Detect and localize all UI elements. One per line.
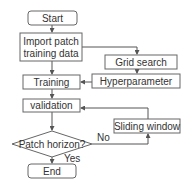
- start-node: Start: [28, 11, 77, 25]
- validation-node: validation: [23, 99, 80, 112]
- import-node: Import patch training data: [20, 33, 82, 61]
- end-node: End: [28, 164, 76, 178]
- sliding-window-label: Sliding window: [114, 121, 181, 132]
- start-label: Start: [42, 13, 63, 24]
- decision-label: Patch horizon?: [19, 139, 86, 150]
- grid-search-node: Grid search: [105, 55, 177, 69]
- hyperparameter-label: Hyperparameter: [100, 76, 173, 87]
- grid-search-label: Grid search: [115, 57, 167, 68]
- hyperparameter-node: Hyperparameter: [92, 74, 180, 88]
- flowchart: Start Import patch training data Grid se…: [0, 0, 192, 190]
- edge-sliding-validation: [81, 108, 148, 119]
- training-label: Training: [34, 77, 70, 88]
- edge-label-yes: Yes: [64, 153, 80, 164]
- import-label-line2: training data: [23, 48, 78, 59]
- import-label-line1: Import patch: [23, 36, 79, 47]
- sliding-window-node: Sliding window: [114, 119, 181, 133]
- edge-label-no: No: [97, 132, 110, 143]
- validation-label: validation: [30, 100, 72, 111]
- edge-import-gridsearch: [82, 47, 137, 54]
- end-label: End: [43, 166, 61, 177]
- training-node: Training: [23, 75, 80, 89]
